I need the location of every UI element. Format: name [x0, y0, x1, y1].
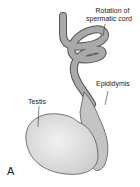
label-epididymis: Epididymis: [96, 80, 130, 88]
panel-letter: A: [7, 165, 14, 177]
label-testis: Testis: [28, 98, 46, 106]
label-rotation-of-spermatic-cord: Rotation of spermatic cord: [86, 7, 132, 23]
label-cord-line2: spermatic cord: [86, 15, 132, 23]
epididymis-leader-line: [105, 91, 108, 105]
testicular-torsion-illustration: [0, 0, 140, 187]
label-cord-line1: Rotation of: [86, 7, 132, 15]
spermatic-cord: [63, 16, 105, 104]
